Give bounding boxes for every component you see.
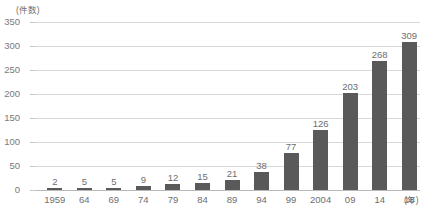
bar-value-label: 38 <box>242 160 282 171</box>
bar-value-label: 126 <box>301 118 341 129</box>
gridline <box>36 46 420 47</box>
bar <box>77 188 92 190</box>
bar <box>136 186 151 190</box>
y-axis-unit-label: (件数) <box>16 5 40 15</box>
y-axis-tick-mark <box>30 118 36 119</box>
bar <box>47 188 62 190</box>
bar-chart: (件数) 35030025020015010050025591215213877… <box>0 0 432 224</box>
y-axis-tick-label: 0 <box>0 185 20 195</box>
bar <box>195 183 210 190</box>
gridline <box>36 166 420 167</box>
gridline <box>36 94 420 95</box>
y-axis-tick-label: 350 <box>0 17 20 27</box>
gridline <box>36 142 420 143</box>
gridline <box>36 22 420 23</box>
x-axis-unit-label: (年) <box>404 194 419 206</box>
bar <box>343 93 358 190</box>
gridline <box>36 118 420 119</box>
y-axis-tick-label: 100 <box>0 137 20 147</box>
bar-value-label: 309 <box>389 30 429 41</box>
bar <box>254 172 269 190</box>
y-axis-tick-label: 200 <box>0 89 20 99</box>
x-axis-baseline <box>36 190 420 191</box>
y-axis-tick-mark <box>30 142 36 143</box>
bar-value-label: 268 <box>360 49 400 60</box>
bar <box>284 153 299 190</box>
bar-value-label: 77 <box>271 141 311 152</box>
y-axis-tick-label: 300 <box>0 41 20 51</box>
y-axis-tick-label: 250 <box>0 65 20 75</box>
y-axis-tick-mark <box>30 190 36 191</box>
plot-area: 3503002502001501005002559121521387712620… <box>36 22 420 190</box>
bar <box>372 61 387 190</box>
bar <box>165 184 180 190</box>
bar <box>106 188 121 190</box>
y-axis-tick-label: 50 <box>0 161 20 171</box>
y-axis-tick-mark <box>30 46 36 47</box>
y-axis-tick-label: 150 <box>0 113 20 123</box>
y-axis-tick-mark <box>30 70 36 71</box>
bar <box>402 42 417 190</box>
bar <box>313 130 328 190</box>
y-axis-tick-mark <box>30 94 36 95</box>
y-axis-tick-mark <box>30 166 36 167</box>
bar-value-label: 203 <box>330 81 370 92</box>
y-axis-tick-mark <box>30 22 36 23</box>
x-axis-tick-labels: 195964697479848994992004091418 <box>36 194 420 208</box>
gridline <box>36 70 420 71</box>
bar <box>225 180 240 190</box>
